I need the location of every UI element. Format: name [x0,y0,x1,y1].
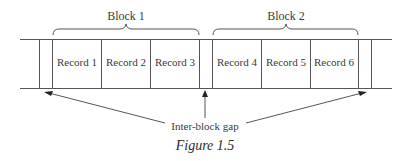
record-6: Record 6 [314,56,354,68]
gap-arrow-right [246,93,362,123]
record-3: Record 3 [155,56,195,68]
gap-arrow-left [49,93,165,123]
record-1: Record 1 [57,56,97,68]
figure-caption: Figure 1.5 [176,138,235,154]
inter-block-gap-label: Inter-block gap [171,120,238,132]
record-2: Record 2 [106,56,146,68]
record-5: Record 5 [266,56,306,68]
block-1-label: Block 1 [107,9,145,24]
block-2-label: Block 2 [267,9,305,24]
record-4: Record 4 [217,56,257,68]
tape-diagram [0,0,412,161]
block-2-brace [213,24,358,35]
block-1-brace [53,24,199,35]
